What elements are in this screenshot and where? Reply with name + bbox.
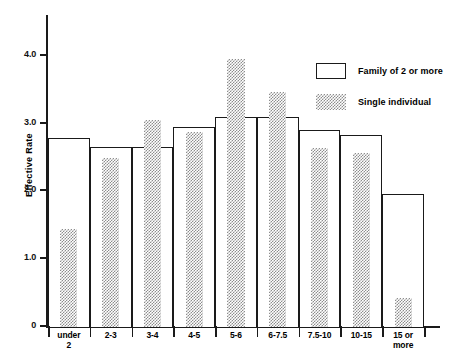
y-tick-2 — [40, 189, 48, 191]
y-tick-label-4: 4.0 — [8, 49, 36, 59]
bar-group — [132, 15, 174, 327]
bar-single-individual — [311, 148, 328, 327]
bar-single-individual — [144, 120, 161, 327]
legend-label-family: Family of 2 or more — [358, 66, 443, 76]
y-tick-3 — [40, 122, 48, 124]
y-tick-label-1: 1.0 — [8, 252, 36, 262]
chart-legend: Family of 2 or more Single individual — [316, 60, 443, 122]
bar-group — [48, 15, 90, 327]
bar-group — [215, 15, 257, 327]
y-tick-label-0: 0 — [8, 320, 36, 330]
bar-group — [90, 15, 132, 327]
bar-single-individual — [269, 92, 286, 327]
bar-group — [173, 15, 215, 327]
bar-single-individual — [60, 229, 77, 327]
bar-single-individual — [102, 158, 119, 327]
stippled-rectangle-swatch-icon — [316, 94, 346, 110]
bar-group — [257, 15, 299, 327]
open-rectangle-swatch-icon — [316, 63, 346, 79]
y-tick-label-2: 2.0 — [8, 184, 36, 194]
y-tick-4 — [40, 54, 48, 56]
bar-single-individual — [395, 298, 412, 327]
bar-single-individual — [227, 59, 244, 327]
y-tick-label-3: 3.0 — [8, 117, 36, 127]
bar-single-individual — [353, 153, 370, 327]
legend-item-family: Family of 2 or more — [316, 60, 443, 82]
legend-item-single: Single individual — [316, 91, 443, 113]
bar-chart: Effective Rate 01.02.03.04.0 under 22-33… — [0, 0, 450, 348]
legend-label-single: Single individual — [358, 97, 431, 107]
y-tick-0 — [40, 325, 48, 327]
bar-single-individual — [186, 132, 203, 327]
x-axis-label-8: 15 or more — [374, 331, 432, 348]
y-tick-1 — [40, 257, 48, 259]
